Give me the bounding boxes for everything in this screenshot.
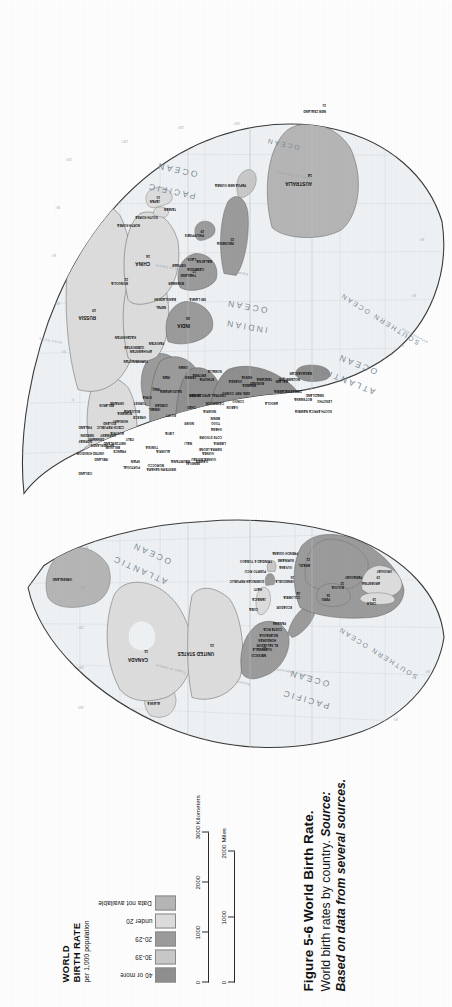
svg-text:WESTERN SAHARA: WESTERN SAHARA [146, 466, 176, 470]
svg-text:CONGO: CONGO [232, 398, 244, 402]
svg-text:BRAZIL: BRAZIL [299, 562, 310, 566]
scale-km-label: 1000 [194, 925, 201, 939]
figure-title: World Birth Rate. [301, 810, 316, 922]
svg-text:TRINIDAD & TOBAGO: TRINIDAD & TOBAGO [239, 558, 272, 562]
figure-label: Figure [301, 949, 316, 991]
svg-text:26: 26 [326, 592, 330, 596]
svg-text:LESOTHO: LESOTHO [317, 398, 332, 402]
scale-km-unit: Kilometers [194, 795, 201, 824]
figure-source-label: Source: [319, 791, 333, 836]
svg-text:GUYANA: GUYANA [278, 564, 292, 568]
svg-text:PANAMA: PANAMA [272, 620, 286, 624]
svg-text:TOGO: TOGO [210, 420, 220, 424]
scale-mi-label: 2000 [220, 844, 227, 858]
svg-text:FRENCH GUIANA: FRENCH GUIANA [271, 550, 298, 554]
svg-text:PAKISTAN: PAKISTAN [149, 340, 164, 344]
svg-text:SAUDI ARABIA: SAUDI ARABIA [159, 388, 182, 392]
svg-text:UNITED KINGDOM: UNITED KINGDOM [76, 450, 104, 454]
svg-text:KAZAKHSTAN: KAZAKHSTAN [115, 334, 136, 338]
svg-text:BANGLADESH: BANGLADESH [154, 296, 176, 300]
svg-text:10: 10 [92, 307, 96, 311]
svg-text:GREECE: GREECE [133, 414, 146, 418]
svg-text:100°: 100° [79, 584, 86, 588]
svg-text:29: 29 [200, 228, 204, 232]
svg-text:PAPUA NEW GUINEA: PAPUA NEW GUINEA [214, 182, 246, 186]
svg-text:NAMIBIA: NAMIBIA [294, 408, 308, 412]
svg-text:DOMINICAN REPUBLIC: DOMINICAN REPUBLIC [229, 578, 264, 582]
legend-swatch [155, 895, 176, 910]
svg-text:HUNGARY: HUNGARY [113, 418, 128, 422]
svg-text:60°: 60° [50, 252, 56, 256]
svg-text:KENYA: KENYA [241, 374, 252, 378]
svg-text:CAMEROON: CAMEROON [206, 400, 224, 404]
svg-text:MALAYSIA: MALAYSIA [195, 258, 212, 262]
svg-text:TAIWAN: TAIWAN [164, 206, 176, 210]
svg-text:160°: 160° [77, 704, 84, 708]
svg-text:20°: 20° [82, 444, 88, 448]
scale-mi-unit: Miles [220, 828, 227, 842]
scale-km-tick [202, 831, 209, 832]
scale-km-label: 0 [194, 980, 201, 983]
svg-text:CANADA: CANADA [127, 656, 148, 661]
svg-text:MYANMAR: MYANMAR [167, 280, 184, 284]
svg-text:120°: 120° [121, 138, 128, 142]
svg-text:20°: 20° [60, 348, 66, 352]
svg-text:JORDAN: JORDAN [155, 402, 168, 406]
svg-text:MADAGASCAR: MADAGASCAR [289, 370, 312, 374]
svg-text:GUINEA-BISSAU: GUINEA-BISSAU [191, 456, 216, 460]
svg-text:URUGUAY: URUGUAY [377, 568, 392, 572]
svg-text:ZAMBIA: ZAMBIA [273, 388, 286, 392]
svg-text:OMAN: OMAN [179, 364, 188, 368]
svg-text:SRI LANKA: SRI LANKA [188, 296, 206, 300]
svg-text:ZIMBABWE: ZIMBABWE [285, 388, 302, 392]
svg-text:BULGARIA: BULGARIA [123, 408, 140, 412]
svg-text:22: 22 [124, 276, 128, 280]
svg-text:ITALY: ITALY [126, 436, 134, 440]
svg-text:AUSTRIA: AUSTRIA [110, 430, 124, 434]
svg-text:20°: 20° [398, 342, 404, 346]
legend-swatch [155, 949, 176, 964]
svg-text:SURINAME: SURINAME [278, 557, 294, 561]
svg-text:IRAN: IRAN [162, 374, 170, 378]
legend-item-label: Data not available [98, 899, 152, 906]
legend-item: 30-39 [135, 949, 176, 964]
figure-number: 5-6 [301, 925, 316, 945]
svg-text:ANGOLA: ANGOLA [264, 400, 278, 404]
svg-text:BELARUS: BELARUS [99, 402, 114, 406]
svg-text:PUERTO RICO: PUERTO RICO [244, 568, 266, 572]
svg-text:40°: 40° [410, 292, 416, 296]
svg-text:ECUADOR: ECUADOR [276, 604, 292, 608]
svg-text:21: 21 [306, 556, 310, 560]
scale-km-tick [202, 931, 209, 932]
svg-text:MEXICO: MEXICO [251, 652, 266, 656]
svg-text:SYRIA: SYRIA [142, 394, 152, 398]
svg-text:SWAZILAND: SWAZILAND [305, 392, 324, 396]
svg-text:SOUTH AFRICA: SOUTH AFRICA [308, 408, 332, 412]
svg-text:BENIN: BENIN [210, 415, 220, 419]
svg-text:CZECH REPUBLIC: CZECH REPUBLIC [96, 424, 124, 428]
legend-title-line1: WORLD [60, 895, 71, 982]
svg-text:CENTRAL AFRICAN REP.: CENTRAL AFRICAN REP. [189, 392, 226, 396]
scale-mi-tick [228, 916, 235, 917]
svg-text:NEPAL: NEPAL [156, 304, 166, 308]
svg-text:10: 10 [156, 194, 160, 198]
scale-km-tick [202, 981, 209, 982]
legend-swatch-list: 40 or more 30-39 20-29 under 20 Data not… [98, 895, 176, 982]
svg-text:NEW ZEALAND: NEW ZEALAND [303, 108, 326, 112]
svg-text:NORTH KOREA: NORTH KOREA [116, 222, 140, 226]
svg-text:80°: 80° [54, 204, 60, 208]
svg-text:24: 24 [296, 590, 300, 594]
svg-text:DEM. REP. CONGO: DEM. REP. CONGO [222, 390, 250, 394]
figure-page: PACIFIC OCEAN ATLANTIC OCEAN SOUTHERN OC… [0, 0, 452, 1007]
legend-item: Data not available [98, 895, 176, 910]
figure-caption: Figure 5-6 World Birth Rate. World birth… [300, 691, 350, 991]
svg-text:80°: 80° [82, 544, 88, 548]
svg-text:TURKMENISTAN: TURKMENISTAN [124, 358, 148, 362]
map-scale-bar: 0 1000 2000 3000 Kilometers 0 1000 2000 … [196, 792, 248, 982]
svg-text:HONDURAS: HONDURAS [258, 637, 276, 641]
svg-text:MOZAMBIQUE: MOZAMBIQUE [279, 376, 300, 380]
svg-text:CUBA: CUBA [248, 606, 258, 610]
legend-item-label: 40 or more [120, 971, 152, 978]
svg-text:GREENLAND: GREENLAND [52, 576, 72, 580]
svg-text:FINLAND: FINLAND [78, 424, 92, 428]
